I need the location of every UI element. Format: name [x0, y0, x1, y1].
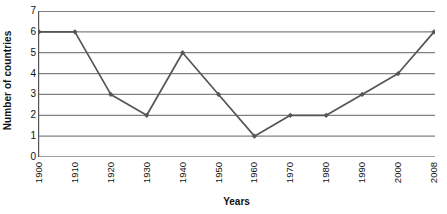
x-axis-tick-label-text: 2000	[393, 162, 403, 183]
x-axis-tick-label: 1930	[127, 160, 167, 194]
x-axis-tick-label-text: 1920	[106, 162, 116, 183]
x-axis-tick-label: 1960	[234, 160, 274, 194]
x-axis-tick-label-text: 1930	[142, 162, 152, 183]
plot-area	[38, 11, 435, 157]
x-axis-tick-label-text: 1970	[286, 162, 296, 183]
x-axis-tick-label: 2000	[378, 160, 418, 194]
y-axis-title: Number of countries	[0, 0, 16, 160]
data-point-marker	[38, 29, 42, 34]
y-axis-tick-label: 6	[22, 27, 36, 37]
x-axis-tick-label-text: 1980	[322, 162, 332, 183]
y-axis-tick-label: 1	[22, 131, 36, 141]
x-axis-tick-labels: 1900191019201930194019501960197019801990…	[38, 160, 435, 196]
x-axis-tick-label: 1990	[342, 160, 382, 194]
line-chart: Number of countries 01234567 19001910192…	[0, 0, 447, 214]
y-axis-tick-label: 5	[22, 48, 36, 58]
series-markers	[38, 29, 435, 138]
x-axis-tick-label: 1920	[91, 160, 131, 194]
x-axis-tick-label: 1970	[270, 160, 310, 194]
y-axis-tick-label: 4	[22, 69, 36, 79]
y-axis-tick-label: 2	[22, 110, 36, 120]
x-axis-tick-label: 1910	[55, 160, 95, 194]
y-axis-tick-label: 7	[22, 6, 36, 16]
x-axis-tick-label: 1950	[199, 160, 239, 194]
x-axis-tick-label: 1900	[19, 160, 59, 194]
x-axis-tick-label: 1940	[163, 160, 203, 194]
y-axis-tick-label: 3	[22, 89, 36, 99]
x-axis-title: Years	[38, 196, 435, 207]
x-axis-tick-label-text: 1900	[34, 162, 44, 183]
x-axis-tick-label-text: 1910	[70, 162, 80, 183]
x-axis-tick-label-text: 1960	[250, 162, 260, 183]
y-axis-title-text: Number of countries	[3, 30, 14, 130]
series-line	[39, 32, 434, 136]
x-axis-tick-label-text: 1950	[214, 162, 224, 183]
x-axis-tick-label-text: 1990	[357, 162, 367, 183]
plot-svg	[38, 11, 435, 157]
x-axis-tick-label-text: 2008	[429, 162, 439, 183]
x-axis-tick-label: 1980	[306, 160, 346, 194]
x-axis-tick-label-text: 1940	[178, 162, 188, 183]
gridlines	[38, 12, 435, 158]
x-axis-tick-label: 2008	[414, 160, 447, 194]
